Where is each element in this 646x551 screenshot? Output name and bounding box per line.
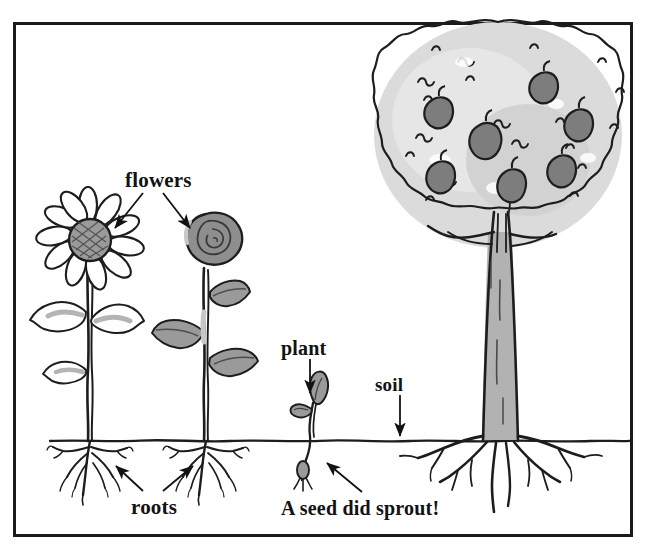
label-flowers: flowers xyxy=(125,168,192,193)
illustration-stage: flowers plant soil roots A seed did spro… xyxy=(0,0,646,551)
label-caption: A seed did sprout! xyxy=(281,497,439,520)
arrow-caption-to-seed xyxy=(327,463,362,492)
sprout-small-leaf xyxy=(291,404,312,417)
sunflower-roots xyxy=(47,441,133,505)
label-soil: soil xyxy=(375,374,403,396)
label-roots: roots xyxy=(131,495,177,520)
rose-bloom xyxy=(186,213,242,265)
sunflower xyxy=(30,187,145,505)
tree-trunk xyxy=(428,212,556,441)
rose xyxy=(152,213,258,505)
seed xyxy=(294,461,312,491)
arrow-flowers-to-rose xyxy=(163,193,190,228)
label-plant: plant xyxy=(281,337,326,360)
annotation-arrows xyxy=(115,193,400,492)
arrow-roots-to-sunflower-roots xyxy=(116,466,143,491)
plant-lifecycle-artwork xyxy=(0,0,646,551)
arrow-roots-to-rose-roots xyxy=(163,466,193,491)
apple-tree xyxy=(373,20,624,512)
sprout-leaf xyxy=(310,372,328,405)
sunflower-center xyxy=(69,219,111,261)
